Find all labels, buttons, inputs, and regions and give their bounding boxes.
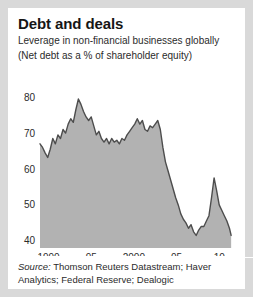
source-note: Source: Thomson Reuters Datastream; Have… [18,261,240,286]
x-tick-label: 2000 [123,252,146,256]
y-tick-label: 70 [24,128,36,139]
x-tick-label: 95 [86,252,98,256]
y-axis-tick-labels: 4050607080 [24,92,36,247]
x-tick-label: 1990 [37,252,60,256]
y-tick-label: 50 [24,199,36,210]
x-tick-label: 10 [214,252,226,256]
area-chart-svg: 4050607080 19909520000510 [8,66,245,256]
y-tick-label: 80 [24,92,36,103]
chart-title: Debt and deals [18,15,123,32]
chart-card: Debt and deals Leverage in non-financial… [8,8,245,289]
x-tick-label: 05 [171,252,183,256]
y-tick-label: 40 [24,235,36,246]
source-label: Source: [18,261,51,272]
y-tick-label: 60 [24,164,36,175]
plot-area: 4050607080 19909520000510 [8,66,245,256]
chart-subtitle-line-1: Leverage in non-financial businesses glo… [18,35,219,46]
source-divider [16,257,253,258]
x-axis-tick-labels: 19909520000510 [37,252,225,256]
chart-subtitle-line-2: (Net debt as a % of shareholder equity) [18,50,192,61]
